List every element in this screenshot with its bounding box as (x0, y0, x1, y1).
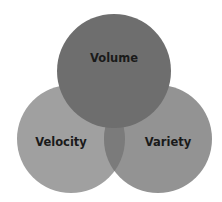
volume-label: Volume (90, 51, 138, 65)
variety-label: Variety (145, 135, 192, 149)
venn-diagram: Volume Velocity Variety (0, 0, 222, 202)
velocity-label: Velocity (35, 135, 87, 149)
volume-circle (57, 14, 171, 128)
